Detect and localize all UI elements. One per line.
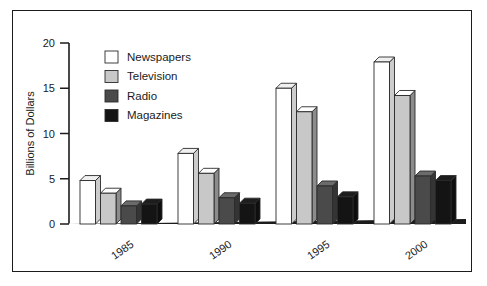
x-axis-tick-label: 1990 bbox=[207, 238, 234, 262]
x-axis-tick-label: 1995 bbox=[305, 238, 332, 262]
bar-television-2000 bbox=[395, 90, 416, 224]
y-axis-tick-label: 5 bbox=[49, 173, 55, 185]
bar-side-face bbox=[194, 148, 199, 224]
bar-newspapers-2000 bbox=[374, 57, 395, 224]
bar-side-face bbox=[96, 176, 101, 224]
y-axis-tick-label: 15 bbox=[43, 82, 55, 94]
bar-front-face bbox=[374, 62, 390, 224]
bar-side-face bbox=[451, 176, 456, 224]
bar-front-face bbox=[142, 204, 158, 224]
chart-figure: 05101520Billions of Dollars1985199019952… bbox=[0, 0, 487, 286]
bar-side-face bbox=[312, 107, 317, 224]
bar-front-face bbox=[219, 198, 235, 224]
bar-front-face bbox=[338, 197, 354, 224]
bar-side-face bbox=[214, 168, 219, 224]
bar-front-face bbox=[415, 176, 431, 224]
bar-radio-1985 bbox=[121, 201, 142, 224]
legend-label: Radio bbox=[127, 90, 157, 102]
y-axis: 05101520 bbox=[43, 37, 69, 230]
bar-magazines-1990 bbox=[240, 198, 261, 224]
legend-label: Newspapers bbox=[127, 51, 191, 63]
bar-front-face bbox=[276, 88, 292, 224]
legend-swatch bbox=[105, 110, 118, 122]
bar-magazines-1985 bbox=[142, 199, 163, 224]
bar-front-face bbox=[178, 153, 194, 224]
bar-radio-1990 bbox=[219, 193, 240, 224]
y-axis-title: Billions of Dollars bbox=[24, 91, 36, 176]
bar-chart-plot: 05101520Billions of Dollars1985199019952… bbox=[0, 0, 487, 286]
y-axis-tick-label: 0 bbox=[49, 218, 55, 230]
bar-television-1985 bbox=[101, 188, 122, 224]
bar-magazines-1995 bbox=[338, 192, 359, 224]
legend-swatch bbox=[105, 71, 118, 83]
legend-item: Newspapers bbox=[105, 51, 191, 63]
bar-front-face bbox=[395, 95, 411, 224]
bar-newspapers-1985 bbox=[80, 176, 101, 224]
bar-side-face bbox=[333, 181, 338, 224]
bar-radio-1995 bbox=[317, 181, 338, 224]
chart-legend: NewspapersTelevisionRadioMagazines bbox=[105, 51, 191, 122]
bar-side-face bbox=[410, 90, 415, 224]
bar-radio-2000 bbox=[415, 171, 436, 224]
bar-television-1990 bbox=[199, 168, 220, 224]
bar-side-face bbox=[292, 83, 297, 224]
bar-front-face bbox=[436, 181, 452, 224]
legend-item: Magazines bbox=[105, 109, 183, 121]
legend-item: Television bbox=[105, 70, 178, 82]
bar-side-face bbox=[431, 171, 436, 224]
y-axis-tick-label: 20 bbox=[43, 37, 55, 49]
legend-swatch bbox=[105, 51, 118, 63]
bar-newspapers-1995 bbox=[276, 83, 297, 224]
bar-front-face bbox=[317, 186, 333, 224]
bar-front-face bbox=[101, 193, 117, 224]
bar-newspapers-1990 bbox=[178, 148, 199, 224]
x-axis-labels: 1985199019952000 bbox=[109, 238, 430, 262]
bar-television-1995 bbox=[297, 107, 318, 224]
x-axis-tick-label: 1985 bbox=[109, 238, 136, 262]
x-axis-tick-label: 2000 bbox=[403, 238, 430, 262]
legend-item: Radio bbox=[105, 90, 157, 102]
bar-front-face bbox=[199, 173, 215, 224]
bar-front-face bbox=[240, 203, 256, 224]
bar-front-face bbox=[121, 206, 137, 224]
bar-front-face bbox=[297, 112, 313, 224]
bar-magazines-2000 bbox=[436, 176, 457, 224]
legend-swatch bbox=[105, 90, 118, 102]
bar-side-face bbox=[390, 57, 395, 224]
bar-front-face bbox=[80, 181, 96, 224]
y-axis-tick-label: 10 bbox=[43, 128, 55, 140]
legend-label: Magazines bbox=[127, 109, 183, 121]
legend-label: Television bbox=[127, 70, 178, 82]
bars-layer bbox=[80, 57, 456, 224]
